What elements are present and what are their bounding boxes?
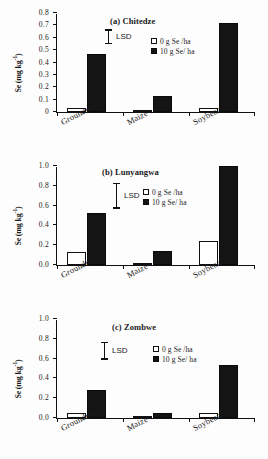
y-axis-title-c: Se (mg kg-1) <box>12 344 23 414</box>
bar-maize-treated <box>153 413 172 418</box>
bar-soybean-treated <box>219 365 238 418</box>
legend-item-treated: 10 g Se/ ha <box>143 197 187 207</box>
x-tick <box>123 112 124 116</box>
legend-item-treated: 10 g Se/ ha <box>153 354 197 364</box>
y-tick: 0.6 <box>53 205 57 206</box>
plot-area-b: 0.00.20.40.60.81.0LSD0 g Se /ha10 g Se/ … <box>56 167 254 266</box>
x-tick <box>57 265 58 269</box>
y-tick-label: 0 <box>45 107 49 116</box>
lsd-error-bar-icon <box>113 183 120 209</box>
plot-area-c: 0.00.20.40.60.81.0LSD0 g Se /ha10 g Se/ … <box>56 320 254 419</box>
y-tick-label: 0.7 <box>39 20 49 29</box>
y-tick-label: 0.2 <box>39 393 49 402</box>
bar-soybean-treated <box>219 23 238 112</box>
y-tick-label: 0.8 <box>39 8 49 17</box>
y-tick-label: 0.5 <box>39 45 49 54</box>
bar-soybean-treated <box>219 166 238 265</box>
y-tick: 0.7 <box>53 24 57 25</box>
x-tick <box>189 112 190 116</box>
y-tick-label: 0.4 <box>39 373 49 382</box>
y-tick: 0.2 <box>53 397 57 398</box>
y-tick: 0.5 <box>53 49 57 50</box>
y-tick: 0.8 <box>53 185 57 186</box>
y-tick-label: 0.3 <box>39 70 49 79</box>
lsd-error-bar-icon <box>101 342 108 360</box>
y-tick: 0.2 <box>53 86 57 87</box>
y-tick: 0.4 <box>53 62 57 63</box>
y-tick: 1.0 <box>53 318 57 319</box>
x-tick <box>189 418 190 422</box>
y-tick-label: 0.4 <box>39 58 49 67</box>
chart-panel-b: Se (mg kg-1) (b) Lunyangwa 0.00.20.40.60… <box>0 153 268 306</box>
legend: 0 g Se /ha10 g Se/ ha <box>151 36 195 56</box>
y-tick-label: 0.8 <box>39 181 49 190</box>
x-tick <box>57 112 58 116</box>
legend-swatch-filled <box>151 48 157 54</box>
y-tick: 1.0 <box>53 165 57 166</box>
y-tick-label: 0.2 <box>39 240 49 249</box>
y-tick: 0.4 <box>53 377 57 378</box>
legend-swatch-open <box>143 189 149 195</box>
y-tick-label: 0.8 <box>39 334 49 343</box>
chart-panel-c: Se (mg kg-1) (c) Zombwe 0.00.20.40.60.81… <box>0 306 268 459</box>
y-axis-title-a: Se (mg kg-1) <box>12 38 23 108</box>
y-tick: 0.8 <box>53 338 57 339</box>
legend: 0 g Se /ha10 g Se/ ha <box>153 344 197 364</box>
y-tick-label: 0.0 <box>39 413 49 422</box>
y-tick-label: 0.0 <box>39 260 49 269</box>
legend: 0 g Se /ha10 g Se/ ha <box>143 187 187 207</box>
lsd-label: LSD <box>124 191 140 200</box>
x-tick <box>254 418 255 422</box>
legend-label: 0 g Se /ha <box>162 345 193 354</box>
figure-se-concentration: Se (mg kg-1) (a) Chitedze 00.10.20.30.40… <box>0 0 268 459</box>
y-tick: 0.6 <box>53 37 57 38</box>
x-tick <box>57 418 58 422</box>
legend-label: 0 g Se /ha <box>152 188 183 197</box>
y-tick: 0.4 <box>53 224 57 225</box>
legend-item-control: 0 g Se /ha <box>153 344 197 354</box>
x-tick <box>123 265 124 269</box>
legend-swatch-filled <box>153 356 159 362</box>
y-tick: 0.3 <box>53 74 57 75</box>
lsd-label: LSD <box>116 32 132 41</box>
y-tick-label: 0.4 <box>39 220 49 229</box>
legend-label: 10 g Se/ ha <box>152 198 187 207</box>
y-tick-label: 0.2 <box>39 82 49 91</box>
lsd-label: LSD <box>112 346 128 355</box>
bar-maize-treated <box>153 96 172 112</box>
plot-area-a: 00.10.20.30.40.50.60.70.8LSD0 g Se /ha10… <box>56 14 254 113</box>
y-tick: 0.8 <box>53 12 57 13</box>
y-tick: 0.6 <box>53 358 57 359</box>
y-axis-title-b: Se (mg kg-1) <box>12 191 23 261</box>
legend-item-control: 0 g Se /ha <box>151 36 195 46</box>
legend-label: 10 g Se/ ha <box>160 47 195 56</box>
y-tick-label: 0.6 <box>39 354 49 363</box>
x-tick <box>254 265 255 269</box>
chart-panel-a: Se (mg kg-1) (a) Chitedze 00.10.20.30.40… <box>0 0 268 153</box>
legend-swatch-open <box>153 346 159 352</box>
y-tick: 0.1 <box>53 99 57 100</box>
x-tick <box>254 112 255 116</box>
legend-swatch-open <box>151 38 157 44</box>
y-tick-label: 1.0 <box>39 161 49 170</box>
lsd-error-bar-icon <box>105 29 112 44</box>
x-tick <box>123 418 124 422</box>
x-tick <box>189 265 190 269</box>
legend-item-treated: 10 g Se/ ha <box>151 46 195 56</box>
y-tick-label: 0.6 <box>39 201 49 210</box>
y-tick-label: 0.6 <box>39 33 49 42</box>
y-tick: 0.2 <box>53 244 57 245</box>
legend-label: 0 g Se /ha <box>160 37 191 46</box>
legend-swatch-filled <box>143 199 149 205</box>
legend-item-control: 0 g Se /ha <box>143 187 187 197</box>
legend-label: 10 g Se/ ha <box>162 355 197 364</box>
y-tick-label: 1.0 <box>39 314 49 323</box>
y-tick-label: 0.1 <box>39 95 49 104</box>
bar-maize-treated <box>153 251 172 265</box>
